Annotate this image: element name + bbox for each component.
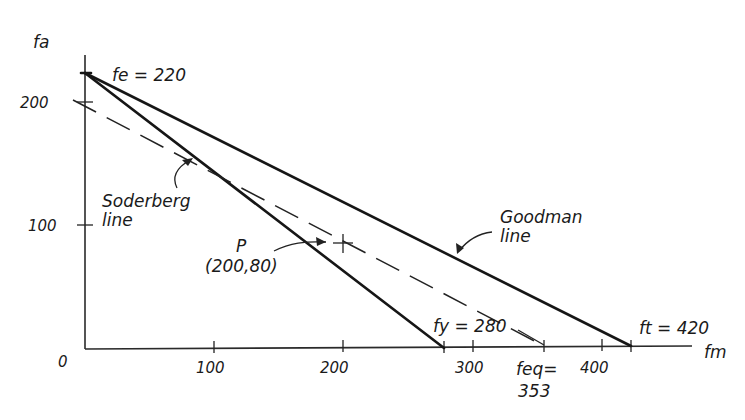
origin-label: 0 — [58, 353, 68, 371]
x-label-100: 100 — [196, 359, 225, 377]
feq-value: 353 — [518, 381, 550, 401]
y-axis-label: fa — [33, 32, 49, 52]
x-label-200: 200 — [320, 359, 349, 377]
arrowhead-icon — [316, 237, 326, 246]
goodman-label-2: line — [500, 226, 531, 246]
soderberg-label-1: Soderberg — [102, 191, 191, 211]
feq-label: feq= — [516, 359, 557, 379]
load-line-dashed — [73, 100, 544, 346]
x-axis-label: fm — [704, 342, 727, 362]
x-label-300: 300 — [455, 359, 484, 377]
y-label-200: 200 — [20, 94, 49, 112]
goodman-label-1: Goodman — [500, 207, 583, 227]
point-p-label: P — [236, 236, 247, 256]
arrowhead-icon — [456, 243, 464, 254]
fe-label: fe = 220 — [112, 65, 186, 85]
soderberg-label-2: line — [102, 210, 133, 230]
x-label-400: 400 — [580, 359, 609, 377]
fy-label: fy = 280 — [433, 316, 507, 336]
goodman-leader-arrow — [459, 232, 492, 251]
y-label-100: 100 — [28, 217, 57, 235]
ft-label: ft = 420 — [639, 318, 709, 338]
goodman-diagram: fa fm 0 200 100 100 200 300 400 fe = 220… — [0, 0, 745, 420]
x-axis — [85, 346, 692, 349]
point-p-coords: (200,80) — [205, 256, 278, 276]
feq-leader — [518, 330, 544, 345]
